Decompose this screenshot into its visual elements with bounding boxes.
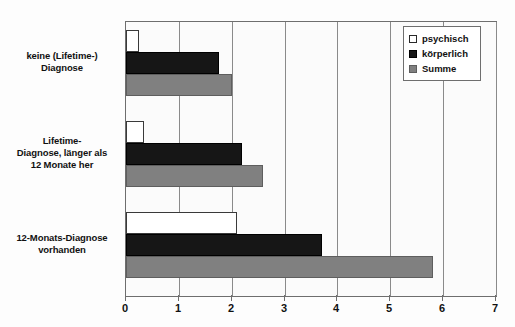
category-label-group: keine (Lifetime-)DiagnoseLifetime-Diagno… [0, 0, 122, 327]
x-axis: 01234567 [125, 295, 495, 325]
category-label-line: Diagnose, länger als [2, 147, 122, 159]
bar-koerperlich-group-1 [126, 52, 219, 74]
bar-summe-group-1 [126, 74, 232, 96]
x-tick-7 [495, 295, 496, 301]
legend-item-psychisch[interactable]: psychisch [409, 31, 475, 46]
legend-item-koerperlich[interactable]: körperlich [409, 46, 475, 61]
x-tick-3 [284, 295, 285, 301]
category-label-1: keine (Lifetime-)Diagnose [2, 50, 122, 74]
legend-label-summe: Summe [422, 63, 456, 74]
x-tick-label-0: 0 [113, 302, 137, 314]
bar-summe-group-3 [126, 256, 433, 278]
x-tick-2 [231, 295, 232, 301]
x-tick-6 [442, 295, 443, 301]
bar-koerperlich-group-3 [126, 234, 322, 256]
legend-swatch-psychisch-icon [409, 35, 417, 43]
gridline-4 [337, 22, 338, 296]
x-tick-label-5: 5 [377, 302, 401, 314]
bar-chart: keine (Lifetime-)DiagnoseLifetime-Diagno… [0, 0, 515, 327]
category-label-line: 12 Monate her [2, 159, 122, 171]
x-tick-label-2: 2 [219, 302, 243, 314]
bar-psychisch-group-1 [126, 30, 139, 52]
category-label-line: Lifetime- [2, 135, 122, 147]
category-label-line: 12-Monats-Diagnose [2, 232, 122, 244]
bar-psychisch-group-2 [126, 121, 144, 143]
legend-item-summe[interactable]: Summe [409, 61, 475, 76]
gridline-5 [390, 22, 391, 296]
category-label-line: Diagnose [2, 62, 122, 74]
category-label-line: vorhanden [2, 244, 122, 256]
x-tick-4 [336, 295, 337, 301]
x-tick-label-3: 3 [272, 302, 296, 314]
legend-swatch-koerperlich-icon [409, 50, 417, 58]
bar-koerperlich-group-2 [126, 143, 242, 165]
bar-psychisch-group-3 [126, 212, 237, 234]
x-tick-label-1: 1 [166, 302, 190, 314]
bar-summe-group-2 [126, 165, 263, 187]
gridline-7 [496, 22, 497, 296]
x-tick-1 [178, 295, 179, 301]
legend-swatch-summe-icon [409, 65, 417, 73]
x-tick-label-4: 4 [324, 302, 348, 314]
category-label-3: 12-Monats-Diagnosevorhanden [2, 232, 122, 256]
category-label-2: Lifetime-Diagnose, länger als12 Monate h… [2, 135, 122, 171]
x-tick-0 [125, 295, 126, 301]
chart-legend: psychischkörperlichSumme [403, 26, 481, 81]
legend-label-koerperlich: körperlich [422, 48, 468, 59]
x-tick-label-7: 7 [483, 302, 507, 314]
x-tick-label-6: 6 [430, 302, 454, 314]
x-tick-5 [389, 295, 390, 301]
category-label-line: keine (Lifetime-) [2, 50, 122, 62]
legend-label-psychisch: psychisch [422, 33, 468, 44]
